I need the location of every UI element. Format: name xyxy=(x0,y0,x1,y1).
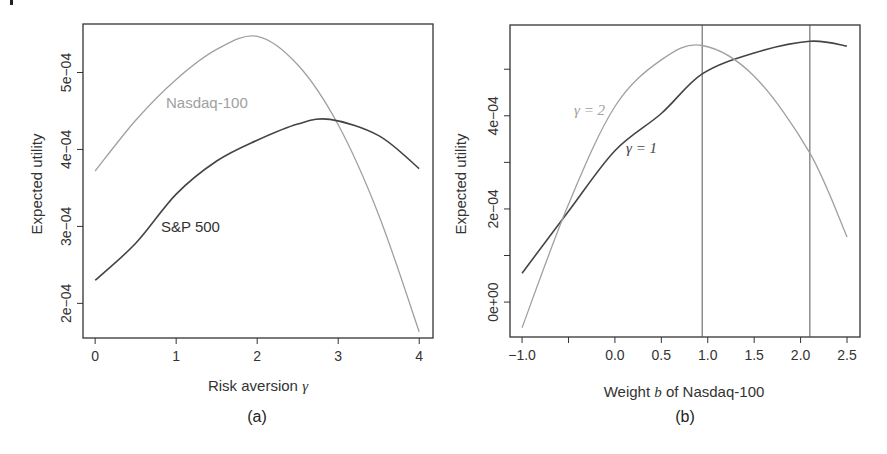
panel-a-y-axis: 2e−043e−044e−045e−04 xyxy=(58,53,83,323)
series-line xyxy=(522,45,847,328)
panel-b-ylabel: Expected utility xyxy=(452,133,469,234)
label-nasdaq: Nasdaq-100 xyxy=(166,94,248,111)
y-tick-label: 5e−04 xyxy=(58,53,74,93)
label-gamma-2: γ = 2 xyxy=(574,102,606,118)
x-tick-label: 2 xyxy=(253,348,261,364)
x-tick-label: 1.5 xyxy=(744,347,764,363)
x-tick-label: 2.0 xyxy=(791,347,811,363)
panel-a-xlabel: Risk aversion γ xyxy=(208,377,309,394)
panel-a-series xyxy=(95,36,419,332)
x-tick-label: 0 xyxy=(91,348,99,364)
panel-a-xlabel-symbol: γ xyxy=(302,378,309,394)
panel-b-caption: (b) xyxy=(675,408,695,425)
panel-a-frame xyxy=(83,24,433,338)
series-line xyxy=(95,119,419,280)
x-tick-label: 0.0 xyxy=(605,347,625,363)
series-line xyxy=(95,36,419,332)
panel-b-frame xyxy=(510,25,860,337)
panel-b-y-axis: 0e+002e−044e−04 xyxy=(485,69,510,321)
panel-b-vlines xyxy=(702,25,810,337)
panel-a-x-axis: 01234 xyxy=(91,338,423,364)
panel-b-xlabel-suffix: of Nasdaq-100 xyxy=(662,383,765,400)
x-tick-label: 1 xyxy=(172,348,180,364)
y-tick-label: 2e−04 xyxy=(485,189,501,229)
y-tick-label: 4e−04 xyxy=(58,130,74,170)
panel-b-xlabel-text: Weight xyxy=(604,383,655,400)
label-sp500: S&P 500 xyxy=(161,218,220,235)
panel-a: 2e−043e−044e−045e−04 01234 Nasdaq-100 S&… xyxy=(28,24,433,425)
x-tick-label: −1.0 xyxy=(508,347,536,363)
y-tick-label: 2e−04 xyxy=(58,283,74,323)
x-tick-label: 1.0 xyxy=(698,347,718,363)
panel-a-xlabel-text: Risk aversion xyxy=(208,377,302,394)
panel-a-caption: (a) xyxy=(247,408,267,425)
y-tick-label: 3e−04 xyxy=(58,207,74,247)
figure: 2e−043e−044e−045e−04 01234 Nasdaq-100 S&… xyxy=(0,0,887,454)
x-tick-label: 4 xyxy=(415,348,423,364)
series-line xyxy=(522,41,847,273)
x-tick-label: 2.5 xyxy=(837,347,857,363)
y-tick-label: 4e−04 xyxy=(485,96,501,136)
x-tick-label: 3 xyxy=(334,348,342,364)
panel-a-ylabel: Expected utility xyxy=(28,133,45,234)
label-gamma-1: γ = 1 xyxy=(626,140,657,156)
page-mark xyxy=(10,0,13,5)
panel-b-xlabel: Weight b of Nasdaq-100 xyxy=(604,383,765,400)
y-tick-label: 0e+00 xyxy=(485,282,501,322)
panel-b-series xyxy=(522,41,847,328)
x-tick-label: 0.5 xyxy=(652,347,672,363)
panel-b: 0e+002e−044e−04 −1.00.00.51.01.52.02.5 γ… xyxy=(452,25,860,425)
panel-b-x-axis: −1.00.00.51.01.52.02.5 xyxy=(508,337,857,363)
